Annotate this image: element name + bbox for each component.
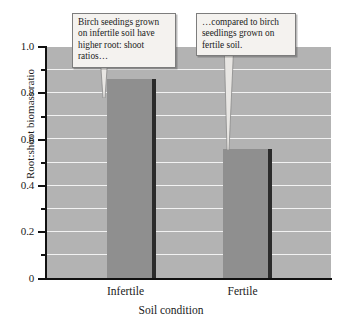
annotation-infertile[interactable]: Birch seedings grown on infertile soil h… xyxy=(72,13,176,68)
y-tick-0.8 xyxy=(38,92,46,94)
y-tick-label-0: 0 xyxy=(0,273,34,284)
y-tick-0.2 xyxy=(38,231,46,233)
bar-infertile[interactable] xyxy=(107,79,152,278)
y-tick-minor-0.1 xyxy=(41,254,46,256)
gridline-0.9 xyxy=(46,69,331,70)
gridline-0.7 xyxy=(46,115,331,116)
gridline-0.2 xyxy=(46,231,331,232)
y-axis-title: Root:shoot biomass ratio xyxy=(24,24,36,224)
y-tick-minor-0.3 xyxy=(41,208,46,210)
plot-area xyxy=(46,47,331,278)
bar-fertile[interactable] xyxy=(223,149,268,278)
annotation-fertile[interactable]: …compared to birch seedlings grown on fe… xyxy=(196,13,296,56)
y-tick-1.0 xyxy=(38,46,46,48)
y-tick-minor-0.7 xyxy=(41,116,46,118)
y-tick-label-0.2: 0.2 xyxy=(0,226,34,237)
y-tick-0.6 xyxy=(38,139,46,141)
annotation-fertile-pointer xyxy=(218,40,244,150)
x-category-label-infertile: Infertile xyxy=(83,285,168,297)
gridline-0.8 xyxy=(46,92,331,93)
y-tick-0.4 xyxy=(38,185,46,187)
gridline-0.3 xyxy=(46,208,331,209)
y-tick-minor-0.5 xyxy=(41,162,46,164)
x-axis-line xyxy=(45,278,332,280)
bar-chart-figure: 1.0 0.8 0.6 0.4 0.2 0 Root:shoot biomass… xyxy=(0,0,342,328)
bar-infertile-shadow xyxy=(152,79,156,278)
x-category-label-fertile: Fertile xyxy=(200,285,285,297)
bar-fertile-shadow xyxy=(268,149,272,278)
x-axis-title: Soil condition xyxy=(0,304,342,316)
gridline-0.5 xyxy=(46,162,331,163)
gridline-0.6 xyxy=(46,138,331,139)
y-tick-minor-0.9 xyxy=(41,69,46,71)
gridline-0.4 xyxy=(46,185,331,186)
gridline-0.1 xyxy=(46,254,331,255)
y-tick-0 xyxy=(38,278,46,280)
